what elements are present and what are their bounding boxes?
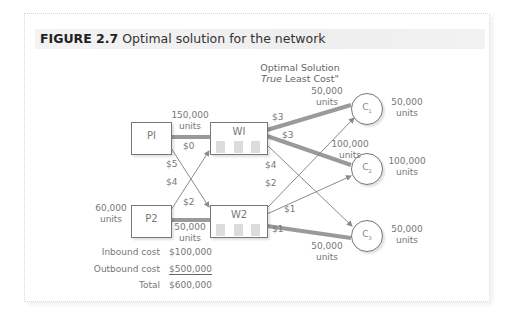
c3-sub: 3: [369, 235, 372, 241]
node-c1-label: C1: [352, 102, 382, 114]
cost-p1-w1: $0: [183, 141, 194, 152]
warehouse-bar: [234, 141, 243, 153]
cost-w1-c2: $3: [282, 130, 293, 141]
cost-w2-c3: $1: [272, 224, 283, 235]
warehouse-bar: [251, 141, 260, 153]
c3-demand-unit: units: [387, 235, 427, 246]
node-c3: C3: [351, 220, 383, 252]
flow-w1-c2: 100,000 units: [328, 139, 372, 161]
c1-demand: 50,000 units: [387, 97, 427, 119]
p2-capacity-unit: units: [93, 214, 129, 225]
total-cost-label: Total: [80, 280, 160, 290]
node-w2: W2: [210, 205, 268, 238]
cost-w2-c1: $2: [265, 178, 276, 189]
cost-w1-c3: $4: [265, 160, 276, 171]
node-w1-label: WI: [211, 126, 267, 137]
node-p2: P2: [131, 205, 172, 238]
node-c1: C1: [351, 93, 383, 125]
warehouse-bar: [251, 224, 260, 236]
cost-w2-c2: $1: [284, 204, 295, 215]
c2-demand: 100,000 units: [385, 156, 429, 178]
network-edges: [0, 0, 518, 316]
flow-w1-c1-value: 50,000: [307, 86, 347, 97]
flow-w2-c3-unit: units: [307, 252, 347, 263]
node-p1-label: PI: [132, 130, 171, 141]
flow-w1-c1-unit: units: [307, 97, 347, 108]
flow-p1-w1: 150,000 units: [168, 110, 212, 132]
cost-p2-w2: $2: [183, 197, 194, 208]
c2-demand-value: 100,000: [385, 156, 429, 167]
cost-w1-c1: $3: [272, 112, 283, 123]
flow-w1-c1: 50,000 units: [307, 86, 347, 108]
flow-w1-c2-unit: units: [328, 150, 372, 161]
cost-p2-w1: $4: [166, 177, 177, 188]
warehouse-bar: [234, 224, 243, 236]
flow-p1-w1-unit: units: [168, 121, 212, 132]
node-w2-label: W2: [211, 209, 267, 220]
flow-w2-c3: 50,000 units: [307, 241, 347, 263]
flow-p2-w2-unit: units: [168, 233, 212, 244]
warehouse-bar: [216, 141, 225, 153]
total-cost-value: $600,000: [169, 280, 212, 290]
flow-p2-w2: 50,000 units: [168, 222, 212, 244]
outbound-cost-value: $500,000: [169, 264, 212, 275]
c1-sub: 1: [369, 108, 372, 114]
outbound-cost-label: Outbound cost: [80, 264, 160, 274]
node-w1: WI: [210, 122, 268, 155]
node-c2-label: C2: [352, 162, 382, 174]
p2-capacity: 60,000 units: [93, 203, 129, 225]
node-p1: PI: [131, 122, 172, 155]
flow-w2-c3-value: 50,000: [307, 241, 347, 252]
inbound-cost-label: Inbound cost: [80, 247, 160, 257]
warehouse-bar: [216, 224, 225, 236]
c3-demand: 50,000 units: [387, 224, 427, 246]
p2-capacity-value: 60,000: [93, 203, 129, 214]
c3-demand-value: 50,000: [387, 224, 427, 235]
c1-demand-value: 50,000: [387, 97, 427, 108]
node-c3-label: C3: [352, 229, 382, 241]
node-p2-label: P2: [132, 213, 171, 224]
flow-p2-w2-value: 50,000: [168, 222, 212, 233]
flow-p1-w1-value: 150,000: [168, 110, 212, 121]
c1-demand-unit: units: [387, 108, 427, 119]
c2-demand-unit: units: [385, 167, 429, 178]
cost-p1-w2: $5: [166, 159, 177, 170]
c2-sub: 2: [369, 168, 372, 174]
inbound-cost-value: $100,000: [169, 247, 212, 257]
flow-w1-c2-value: 100,000: [328, 139, 372, 150]
